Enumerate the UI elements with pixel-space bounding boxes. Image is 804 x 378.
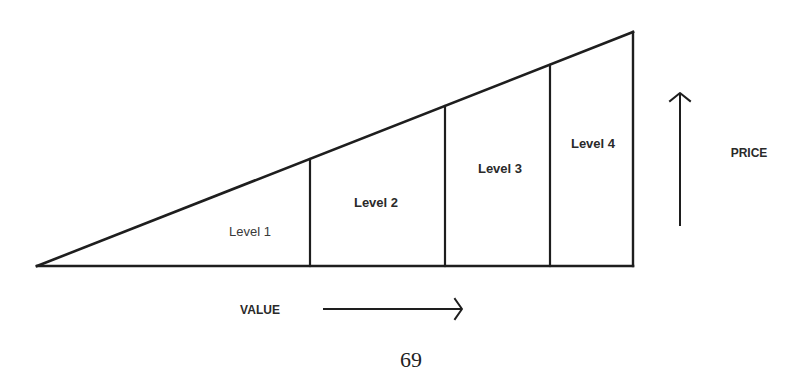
- wedge-shape: [37, 32, 633, 266]
- value-axis-label: VALUE: [240, 303, 280, 317]
- level-2-label: Level 2: [354, 195, 398, 210]
- hypotenuse: [37, 32, 633, 266]
- up-arrow-icon: [670, 93, 690, 225]
- price-value-diagram: Level 1 Level 2 Level 3 Level 4 PRICE VA…: [0, 0, 804, 378]
- level-4-label: Level 4: [571, 136, 616, 151]
- price-axis-label: PRICE: [731, 146, 768, 160]
- level-1-label: Level 1: [229, 224, 271, 239]
- right-arrow-icon: [324, 299, 462, 319]
- level-3-label: Level 3: [478, 161, 522, 176]
- page-number: 69: [400, 347, 422, 372]
